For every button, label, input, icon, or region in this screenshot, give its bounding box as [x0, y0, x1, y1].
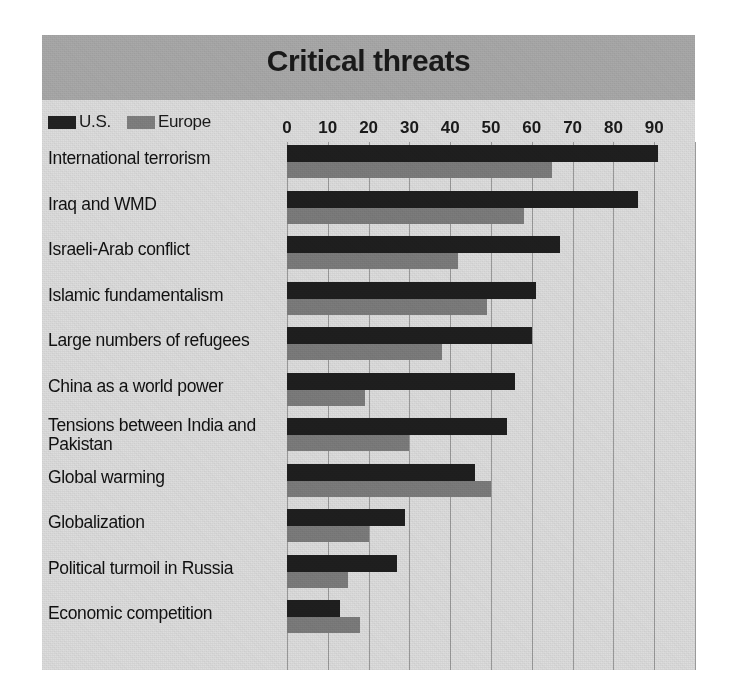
category-label: International terrorism: [48, 149, 286, 168]
x-tick-label: 90: [645, 118, 664, 138]
bar-us: [287, 236, 560, 253]
x-tick-label: 30: [400, 118, 419, 138]
category-label: Israeli-Arab conflict: [48, 240, 286, 259]
x-tick-label: 80: [604, 118, 623, 138]
category-label: China as a world power: [48, 377, 286, 396]
chart-title: Critical threats: [42, 44, 695, 78]
category-axis: International terrorismIraq and WMDIsrae…: [48, 142, 286, 670]
chart-legend: U.S. Europe: [48, 109, 227, 135]
bar-europe: [287, 481, 491, 497]
category-label: Economic competition: [48, 604, 286, 623]
x-axis-tick-labels: 0102030405060708090: [287, 118, 695, 144]
bar-europe: [287, 572, 348, 588]
bar-us: [287, 373, 515, 390]
category-label: Political turmoil in Russia: [48, 559, 286, 578]
chart-panel: Critical threats U.S. Europe Internation…: [42, 35, 695, 670]
gridline: [695, 142, 696, 670]
bar-us: [287, 555, 397, 572]
category-label: Large numbers of refugees: [48, 331, 286, 350]
bar-us: [287, 191, 638, 208]
legend-label-europe: Europe: [158, 112, 211, 132]
x-tick-label: 60: [522, 118, 541, 138]
bar-europe: [287, 526, 369, 542]
category-label: Tensions between India and Pakistan: [48, 416, 286, 454]
legend-label-us: U.S.: [79, 112, 111, 132]
category-label: Global warming: [48, 468, 286, 487]
europe-swatch-icon: [127, 116, 155, 129]
x-tick-label: 70: [563, 118, 582, 138]
plot-area: 0102030405060708090: [287, 118, 695, 670]
bar-us: [287, 464, 475, 481]
bar-us: [287, 145, 658, 162]
legend-item-us: U.S.: [48, 112, 111, 132]
x-tick-label: 50: [482, 118, 501, 138]
x-tick-label: 0: [282, 118, 291, 138]
bar-us: [287, 282, 536, 299]
category-label: Iraq and WMD: [48, 195, 286, 214]
chart-header: Critical threats: [42, 35, 695, 100]
bar-europe: [287, 208, 524, 224]
category-label: Globalization: [48, 513, 286, 532]
x-tick-label: 40: [441, 118, 460, 138]
chart-screenshot: Critical threats U.S. Europe Internation…: [0, 0, 737, 696]
us-swatch-icon: [48, 116, 76, 129]
bar-europe: [287, 617, 360, 633]
bars-group: [287, 142, 695, 670]
x-tick-label: 10: [318, 118, 337, 138]
bar-us: [287, 327, 532, 344]
bar-europe: [287, 299, 487, 315]
x-tick-label: 20: [359, 118, 378, 138]
bar-europe: [287, 390, 365, 406]
bar-us: [287, 509, 405, 526]
bar-europe: [287, 253, 458, 269]
bar-europe: [287, 344, 442, 360]
bar-us: [287, 418, 507, 435]
bar-us: [287, 600, 340, 617]
bar-europe: [287, 435, 409, 451]
legend-item-europe: Europe: [127, 112, 211, 132]
category-label: Islamic fundamentalism: [48, 286, 286, 305]
bar-europe: [287, 162, 552, 178]
